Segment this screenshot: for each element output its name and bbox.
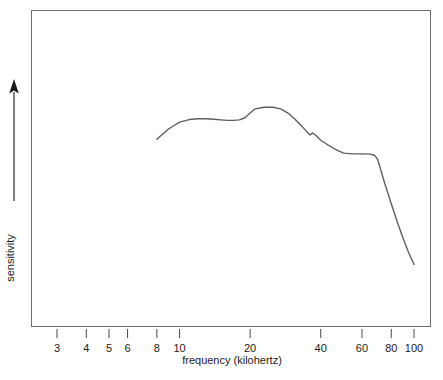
x-axis-tick-label: 5	[106, 342, 112, 354]
x-axis-tick-label: 20	[244, 342, 256, 354]
x-axis-tick-label: 6	[125, 342, 131, 354]
x-axis-tick-label: 80	[385, 342, 397, 354]
x-axis-tick-label: 10	[173, 342, 185, 354]
x-axis-tick-label: 100	[405, 342, 423, 354]
x-axis-title: frequency (kilohertz)	[182, 354, 282, 366]
chart-background	[0, 0, 443, 380]
x-axis-tick-label: 3	[54, 342, 60, 354]
y-axis-title: sensitivity	[4, 234, 16, 282]
x-axis-tick-label: 40	[315, 342, 327, 354]
x-axis-tick-label: 4	[83, 342, 89, 354]
x-axis-tick-label: 8	[154, 342, 160, 354]
chart-figure: 345681020406080100 frequency (kilohertz)…	[0, 0, 443, 380]
x-axis-tick-label: 60	[356, 342, 368, 354]
sensitivity-frequency-chart: 345681020406080100 frequency (kilohertz)…	[0, 0, 443, 380]
